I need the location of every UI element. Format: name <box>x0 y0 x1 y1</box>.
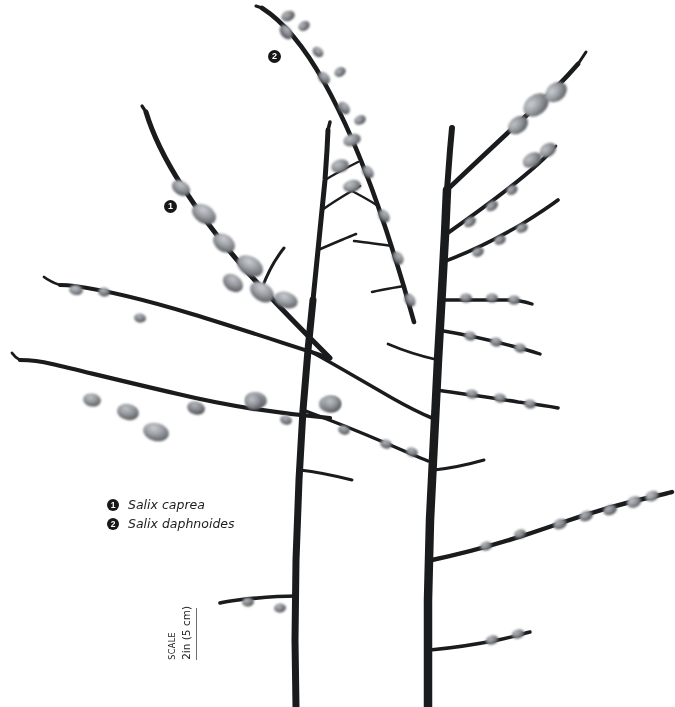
legend-bullet-1: 1 <box>107 499 119 511</box>
species-legend: 1 Salix caprea 2 Salix daphnoides <box>107 495 235 533</box>
legend-item: 2 Salix daphnoides <box>107 514 235 533</box>
scale-rule-line <box>196 608 197 660</box>
legend-item: 1 Salix caprea <box>107 495 235 514</box>
willow-branch-illustration <box>0 0 675 707</box>
legend-bullet-2: 2 <box>107 518 119 530</box>
callout-marker-2: 2 <box>268 50 281 63</box>
botanical-plate: 1 2 1 Salix caprea 2 Salix daphnoides SC… <box>0 0 675 707</box>
scale-bar: SCALE 2in (5 cm) <box>168 600 197 660</box>
scale-value: 2in (5 cm) <box>180 606 192 660</box>
legend-label-salix-caprea: Salix caprea <box>128 497 205 512</box>
callout-marker-1: 1 <box>164 200 177 213</box>
scale-caption: SCALE <box>168 628 177 660</box>
legend-label-salix-daphnoides: Salix daphnoides <box>128 516 235 531</box>
